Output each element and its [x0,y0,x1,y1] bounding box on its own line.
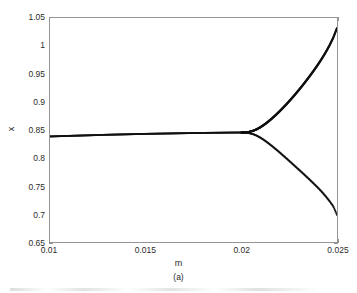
y-tick-label: 0.95 [0,69,45,79]
x-tick-label: 0.025 [327,245,348,255]
figure-canvas: x 0.650.70.750.80.850.90.9511.05 0.010.0… [0,0,357,293]
page-scan-artifact [10,288,320,291]
y-tick-mark-right [334,243,338,244]
x-axis-label: m [0,258,357,268]
curve-stable-upper-branch [240,27,337,133]
y-tick-label: 0.9 [0,97,45,107]
y-tick-label: 0.85 [0,125,45,135]
x-tick-label: 0.02 [233,245,250,255]
figure-caption: (a) [0,272,357,282]
curve-stable-lower-branch-and-trunk [50,132,337,216]
y-tick-label: 0.7 [0,210,45,220]
x-tick-label: 0.015 [135,245,156,255]
plot-area [49,17,338,243]
y-tick-label: 1 [0,40,45,50]
x-tick-mark [338,239,339,243]
x-tick-label: 0.01 [41,245,58,255]
y-tick-label: 0.8 [0,153,45,163]
y-tick-mark [49,243,53,244]
bifurcation-curves [50,18,337,242]
x-tick-mark-top [338,17,339,21]
y-tick-label: 1.05 [0,12,45,22]
y-tick-label: 0.65 [0,238,45,248]
y-tick-label: 0.75 [0,182,45,192]
